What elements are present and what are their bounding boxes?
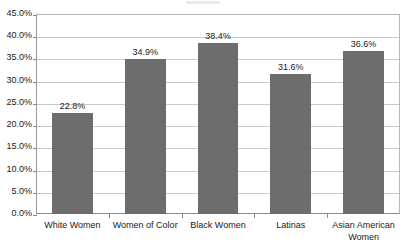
bar[interactable] (52, 113, 93, 214)
bar-group: 34.9% (109, 14, 182, 214)
bar-value-label: 38.4% (182, 31, 255, 41)
bar[interactable] (125, 59, 166, 214)
bar-group: 36.6% (327, 14, 400, 214)
bar-value-label: 34.9% (109, 47, 182, 57)
y-tick-label: 40.0% (0, 31, 32, 40)
x-category-tick (182, 214, 183, 218)
scan-artifact (186, 1, 220, 4)
bar[interactable] (270, 74, 311, 214)
x-category-tick (254, 214, 255, 218)
x-category-label: Asian American Women (327, 219, 400, 243)
y-tick-label: 30.0% (0, 76, 32, 85)
bar-group: 38.4% (182, 14, 255, 214)
bar-value-label: 36.6% (327, 39, 400, 49)
x-category-tick (109, 214, 110, 218)
y-tick-label: 20.0% (0, 120, 32, 129)
y-tick-label: 15.0% (0, 142, 32, 151)
bar-group: 22.8% (36, 14, 109, 214)
y-tick-label: 0.0% (0, 209, 32, 218)
y-tick-label: 25.0% (0, 98, 32, 107)
bar-chart-figure: 0.0%5.0%10.0%15.0%20.0%25.0%30.0%35.0%40… (0, 0, 407, 250)
bar[interactable] (198, 43, 239, 214)
bars-layer: 22.8%34.9%38.4%31.6%36.6% (36, 14, 400, 214)
y-tick-label: 35.0% (0, 53, 32, 62)
bar[interactable] (343, 51, 384, 214)
x-category-label: Latinas (254, 219, 327, 231)
y-tick-mark (33, 215, 37, 216)
x-category-label: White Women (36, 219, 109, 231)
bar-group: 31.6% (254, 14, 327, 214)
x-category-label: Black Women (182, 219, 255, 231)
y-tick-label: 45.0% (0, 9, 32, 18)
bar-value-label: 31.6% (254, 62, 327, 72)
y-tick-label: 10.0% (0, 165, 32, 174)
y-tick-label: 5.0% (0, 187, 32, 196)
x-category-label: Women of Color (109, 219, 182, 231)
x-category-tick (327, 214, 328, 218)
x-axis-labels: White WomenWomen of ColorBlack WomenLati… (36, 219, 400, 249)
bar-value-label: 22.8% (36, 101, 109, 111)
